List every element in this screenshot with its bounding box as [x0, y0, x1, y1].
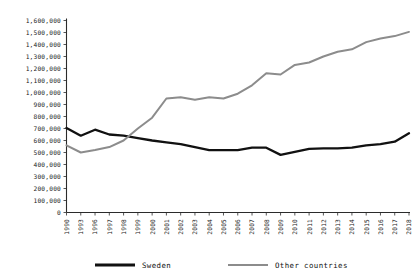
y-tick-label: 1,200,000: [26, 65, 61, 72]
y-tick-label: 800,000: [34, 113, 62, 120]
y-tick-label: 100,000: [34, 197, 62, 204]
y-tick-label: 1,000,000: [26, 89, 61, 96]
x-tick-label: 1999: [134, 219, 141, 235]
x-tick-label: 1997: [106, 219, 113, 235]
x-tick-label: 1998: [120, 219, 127, 235]
x-tick-label: 2011: [306, 219, 313, 235]
y-tick-label: 1,600,000: [26, 17, 61, 24]
x-tick-label: 2010: [291, 219, 298, 235]
x-tick-label: 2015: [363, 219, 370, 235]
x-axis-group: 1990199319961997199819992000200120022003…: [63, 213, 413, 235]
y-tick-label: 500,000: [34, 149, 62, 156]
x-tick-label: 2012: [320, 219, 327, 235]
y-axis-group: 1,600,0001,500,0001,400,0001,300,0001,20…: [26, 17, 67, 216]
x-tick-label: 2002: [177, 219, 184, 235]
series-line-sweden: [67, 128, 410, 155]
x-tick-label: 1993: [77, 219, 84, 235]
x-tick-label: 2008: [263, 219, 270, 235]
x-tick-label: 2014: [348, 219, 355, 235]
y-tick-label: 600,000: [34, 137, 62, 144]
y-tick-label: 900,000: [34, 101, 62, 108]
y-tick-labels: 1,600,0001,500,0001,400,0001,300,0001,20…: [26, 17, 61, 216]
chart-legend: SwedenOther countries: [95, 261, 348, 270]
y-tick-label: 0: [57, 209, 61, 216]
x-tick-label: 2004: [206, 219, 213, 235]
x-tick-label: 2007: [248, 219, 255, 235]
x-tick-label: 2013: [334, 219, 341, 235]
x-tick-label: 2003: [191, 219, 198, 235]
x-tick-label: 2006: [234, 219, 241, 235]
data-series-group: [67, 32, 410, 155]
x-tick-labels: 1990199319961997199819992000200120022003…: [63, 219, 413, 235]
x-tick-label: 2017: [391, 219, 398, 235]
x-tick-label: 2018: [405, 219, 412, 235]
x-tick-label: 2001: [163, 219, 170, 235]
y-tick-label: 1,400,000: [26, 41, 61, 48]
legend-label-other-countries: Other countries: [275, 261, 348, 270]
y-tick-label: 300,000: [34, 173, 62, 180]
y-tick-label: 1,300,000: [26, 53, 61, 60]
x-tick-label: 1996: [91, 219, 98, 235]
x-tick-label: 1990: [63, 219, 70, 235]
x-tick-label: 2016: [377, 219, 384, 235]
x-tick-label: 2000: [149, 219, 156, 235]
chart-canvas: 1,600,0001,500,0001,400,0001,300,0001,20…: [0, 0, 420, 280]
x-tick-label: 2009: [277, 219, 284, 235]
y-tick-label: 1,500,000: [26, 29, 61, 36]
legend-label-sweden: Sweden: [142, 261, 171, 270]
line-chart: 1,600,0001,500,0001,400,0001,300,0001,20…: [0, 0, 420, 280]
y-tick-label: 1,100,000: [26, 77, 61, 84]
x-tick-label: 2005: [220, 219, 227, 235]
y-tick-label: 700,000: [34, 125, 62, 132]
y-tick-label: 400,000: [34, 161, 62, 168]
y-tick-label: 200,000: [34, 185, 62, 192]
